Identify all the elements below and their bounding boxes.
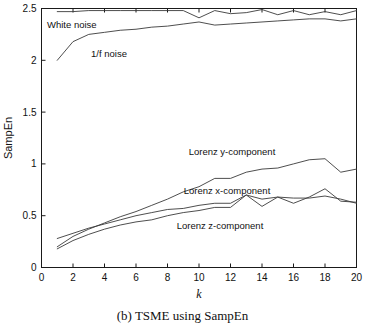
series-line-white-noise: [57, 10, 356, 18]
x-tick-label: 0: [39, 272, 45, 283]
sampen-line-chart: 0246810121416182000.511.522.5SampEnk Whi…: [0, 0, 365, 328]
x-tick-label: 2: [70, 272, 76, 283]
x-tick-label: 4: [102, 272, 108, 283]
series-lines: [57, 10, 356, 249]
x-tick-label: 16: [288, 272, 300, 283]
annotation-white-noise: White noise: [47, 19, 97, 30]
y-axis-title: SampEn: [2, 117, 14, 159]
x-tick-label: 12: [225, 272, 237, 283]
y-tick-label: 2.5: [23, 3, 37, 14]
y-tick-label: 2: [31, 55, 37, 66]
x-tick-label: 14: [256, 272, 268, 283]
series-line-lorenz-y-component: [57, 159, 356, 247]
y-tick-label: 1.5: [23, 107, 37, 118]
series-line-lorenz-x-component: [57, 189, 356, 239]
chart-figure: 0246810121416182000.511.522.5SampEnk Whi…: [0, 0, 365, 328]
x-tick-label: 10: [193, 272, 205, 283]
x-tick-label: 8: [165, 272, 171, 283]
annotation-pink-noise: 1/f noise: [91, 48, 127, 59]
figure-caption: (b) TSME using SampEn: [0, 308, 365, 324]
x-axis-title: k: [196, 287, 202, 301]
x-tick-label: 18: [319, 272, 331, 283]
y-tick-label: 0: [31, 262, 37, 273]
annotation-lorenz-y: Lorenz y-component: [189, 146, 276, 157]
x-tick-label: 20: [351, 272, 363, 283]
axes: 0246810121416182000.511.522.5SampEnk: [2, 3, 362, 301]
annotation-lorenz-x: Lorenz x-component: [184, 185, 271, 196]
y-tick-label: 0.5: [23, 210, 37, 221]
x-tick-label: 6: [133, 272, 139, 283]
y-tick-label: 1: [31, 158, 37, 169]
annotation-lorenz-z: Lorenz z-component: [177, 220, 264, 231]
